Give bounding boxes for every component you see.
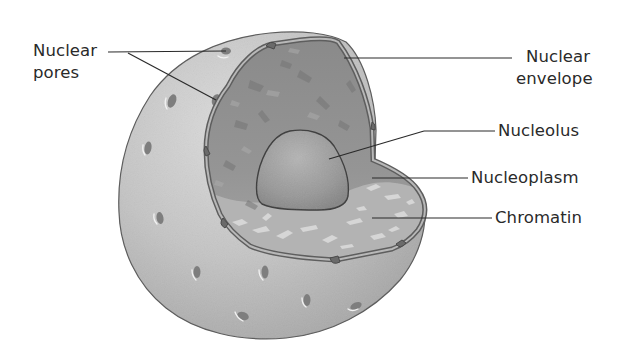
label-nucleoplasm-text: Nucleoplasm — [471, 167, 579, 189]
label-nucleoplasm: Nucleoplasm — [471, 167, 579, 189]
label-nucleolus: Nucleolus — [498, 120, 579, 142]
label-chromatin-text: Chromatin — [495, 207, 582, 229]
label-nuclear-envelope-line2: envelope — [516, 68, 593, 90]
label-nuclear-envelope-line1: Nuclear — [516, 46, 593, 68]
label-nucleolus-text: Nucleolus — [498, 120, 579, 142]
label-nuclear-pores-line2: pores — [33, 62, 97, 84]
pore — [194, 266, 201, 278]
nucleus-diagram: Nuclear pores Nuclear envelope Nucleolus… — [0, 0, 633, 357]
pore — [262, 266, 269, 279]
pore — [304, 294, 311, 306]
label-nuclear-envelope: Nuclear envelope — [516, 46, 593, 90]
label-nuclear-pores: Nuclear pores — [33, 40, 97, 84]
label-nuclear-pores-line1: Nuclear — [33, 40, 97, 62]
label-chromatin: Chromatin — [495, 207, 582, 229]
